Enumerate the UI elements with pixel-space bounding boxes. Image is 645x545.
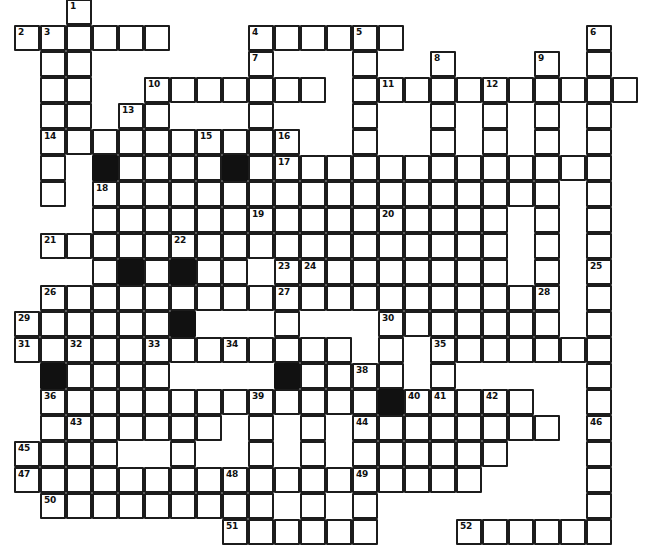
crossword-cell[interactable]: [248, 155, 274, 181]
crossword-cell[interactable]: [352, 285, 378, 311]
crossword-cell[interactable]: [352, 181, 378, 207]
crossword-cell[interactable]: [170, 207, 196, 233]
crossword-cell[interactable]: [326, 337, 352, 363]
crossword-cell[interactable]: [482, 155, 508, 181]
crossword-cell[interactable]: [274, 233, 300, 259]
crossword-cell[interactable]: [222, 259, 248, 285]
numbered-cell[interactable]: 8: [430, 51, 456, 77]
crossword-cell[interactable]: [482, 181, 508, 207]
crossword-cell[interactable]: [586, 285, 612, 311]
numbered-cell[interactable]: 22: [170, 233, 196, 259]
crossword-cell[interactable]: [170, 77, 196, 103]
crossword-cell[interactable]: [378, 181, 404, 207]
crossword-cell[interactable]: [352, 233, 378, 259]
crossword-cell[interactable]: [430, 77, 456, 103]
crossword-cell[interactable]: [456, 441, 482, 467]
crossword-cell[interactable]: [92, 337, 118, 363]
numbered-cell[interactable]: 47: [14, 467, 40, 493]
crossword-cell[interactable]: [430, 441, 456, 467]
crossword-cell[interactable]: [66, 389, 92, 415]
numbered-cell[interactable]: 36: [40, 389, 66, 415]
crossword-cell[interactable]: [92, 129, 118, 155]
crossword-cell[interactable]: [378, 285, 404, 311]
crossword-cell[interactable]: [404, 441, 430, 467]
numbered-cell[interactable]: 27: [274, 285, 300, 311]
crossword-cell[interactable]: [378, 25, 404, 51]
crossword-cell[interactable]: [40, 51, 66, 77]
crossword-cell[interactable]: [404, 77, 430, 103]
crossword-cell[interactable]: [274, 25, 300, 51]
numbered-cell[interactable]: 23: [274, 259, 300, 285]
numbered-cell[interactable]: 44: [352, 415, 378, 441]
crossword-cell[interactable]: [352, 155, 378, 181]
crossword-cell[interactable]: [118, 233, 144, 259]
crossword-cell[interactable]: [456, 337, 482, 363]
numbered-cell[interactable]: 20: [378, 207, 404, 233]
crossword-cell[interactable]: [40, 103, 66, 129]
crossword-cell[interactable]: [326, 207, 352, 233]
crossword-cell[interactable]: [222, 207, 248, 233]
crossword-cell[interactable]: [118, 129, 144, 155]
crossword-cell[interactable]: [430, 155, 456, 181]
numbered-cell[interactable]: 12: [482, 77, 508, 103]
crossword-cell[interactable]: [40, 155, 66, 181]
crossword-cell[interactable]: [534, 259, 560, 285]
crossword-cell[interactable]: [144, 467, 170, 493]
numbered-cell[interactable]: 15: [196, 129, 222, 155]
crossword-cell[interactable]: [300, 337, 326, 363]
crossword-cell[interactable]: [482, 259, 508, 285]
crossword-cell[interactable]: [92, 493, 118, 519]
crossword-cell[interactable]: [66, 285, 92, 311]
crossword-cell[interactable]: [118, 311, 144, 337]
crossword-cell[interactable]: [274, 337, 300, 363]
crossword-cell[interactable]: [300, 415, 326, 441]
crossword-cell[interactable]: [118, 493, 144, 519]
crossword-cell[interactable]: [586, 103, 612, 129]
crossword-cell[interactable]: [40, 337, 66, 363]
crossword-cell[interactable]: [586, 311, 612, 337]
crossword-cell[interactable]: [144, 389, 170, 415]
crossword-cell[interactable]: [378, 363, 404, 389]
crossword-cell[interactable]: [40, 311, 66, 337]
crossword-cell[interactable]: [144, 207, 170, 233]
crossword-cell[interactable]: [534, 519, 560, 545]
crossword-cell[interactable]: [196, 77, 222, 103]
crossword-cell[interactable]: [326, 233, 352, 259]
numbered-cell[interactable]: 30: [378, 311, 404, 337]
crossword-cell[interactable]: [534, 415, 560, 441]
crossword-cell[interactable]: [170, 155, 196, 181]
crossword-cell[interactable]: [92, 467, 118, 493]
crossword-cell[interactable]: [456, 467, 482, 493]
crossword-cell[interactable]: [144, 181, 170, 207]
numbered-cell[interactable]: 11: [378, 77, 404, 103]
crossword-cell[interactable]: [196, 493, 222, 519]
crossword-cell[interactable]: [404, 259, 430, 285]
crossword-cell[interactable]: [170, 493, 196, 519]
crossword-cell[interactable]: [586, 233, 612, 259]
crossword-cell[interactable]: [404, 415, 430, 441]
crossword-cell[interactable]: [482, 519, 508, 545]
crossword-cell[interactable]: [586, 519, 612, 545]
crossword-cell[interactable]: [352, 441, 378, 467]
crossword-cell[interactable]: [508, 181, 534, 207]
crossword-cell[interactable]: [352, 207, 378, 233]
crossword-cell[interactable]: [300, 207, 326, 233]
crossword-cell[interactable]: [300, 389, 326, 415]
crossword-cell[interactable]: [534, 337, 560, 363]
crossword-cell[interactable]: [248, 519, 274, 545]
crossword-cell[interactable]: [118, 25, 144, 51]
crossword-cell[interactable]: [586, 467, 612, 493]
crossword-cell[interactable]: [456, 233, 482, 259]
crossword-cell[interactable]: [534, 129, 560, 155]
crossword-cell[interactable]: [560, 337, 586, 363]
numbered-cell[interactable]: 34: [222, 337, 248, 363]
crossword-cell[interactable]: [586, 441, 612, 467]
numbered-cell[interactable]: 49: [352, 467, 378, 493]
crossword-cell[interactable]: [378, 467, 404, 493]
crossword-cell[interactable]: [378, 441, 404, 467]
crossword-cell[interactable]: [66, 363, 92, 389]
crossword-cell[interactable]: [430, 311, 456, 337]
crossword-cell[interactable]: [144, 493, 170, 519]
crossword-cell[interactable]: [118, 285, 144, 311]
